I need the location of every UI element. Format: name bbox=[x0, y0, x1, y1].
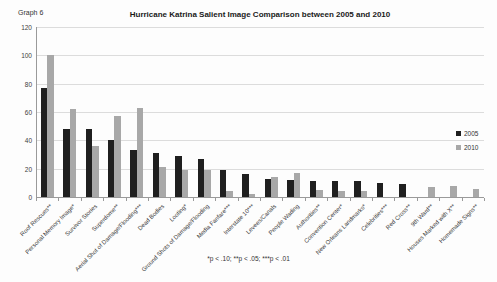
x-axis-tickmark bbox=[81, 198, 82, 201]
x-axis-tickmark bbox=[439, 198, 440, 201]
x-axis-tickmark bbox=[126, 198, 127, 201]
bar-2005-16 bbox=[399, 184, 406, 197]
x-axis-tickmark bbox=[394, 198, 395, 201]
bar-2010-5 bbox=[159, 167, 166, 197]
bar-2010-2 bbox=[92, 146, 99, 197]
x-axis-tickmark bbox=[36, 198, 37, 201]
y-axis-tick-20: 20 bbox=[8, 166, 32, 173]
legend-label-2005: 2005 bbox=[464, 130, 478, 137]
bar-2010-8 bbox=[226, 191, 233, 197]
bar-2010-19 bbox=[473, 189, 480, 198]
x-axis-tickmark bbox=[350, 198, 351, 201]
bar-2010-14 bbox=[361, 191, 368, 197]
legend-swatch-2010 bbox=[456, 145, 461, 150]
significance-footnote: *p < .10; **p < .05; ***p < .01 bbox=[0, 255, 497, 262]
bar-2010-11 bbox=[294, 173, 301, 197]
x-axis-tickmark bbox=[484, 198, 485, 201]
bar-2010-4 bbox=[137, 108, 144, 197]
bar-2010-3 bbox=[114, 116, 121, 197]
y-axis-tick-60: 60 bbox=[8, 109, 32, 116]
bar-2005-15 bbox=[377, 183, 384, 197]
x-axis-tickmark bbox=[462, 198, 463, 201]
bar-2010-7 bbox=[204, 170, 211, 197]
y-axis-tick-80: 80 bbox=[8, 81, 32, 88]
gridline-120 bbox=[36, 27, 484, 28]
x-axis-tickmark bbox=[215, 198, 216, 201]
bar-2010-6 bbox=[182, 170, 189, 197]
legend-label-2010: 2010 bbox=[464, 144, 478, 151]
bar-2010-13 bbox=[338, 191, 345, 197]
y-axis-tick-40: 40 bbox=[8, 137, 32, 144]
gridline-40 bbox=[36, 140, 484, 141]
y-axis-line bbox=[36, 27, 37, 197]
x-axis-tickmark bbox=[260, 198, 261, 201]
x-axis-tickmark bbox=[103, 198, 104, 201]
x-axis-tickmark bbox=[327, 198, 328, 201]
x-axis-tickmark bbox=[58, 198, 59, 201]
y-axis-tick-120: 120 bbox=[8, 24, 32, 31]
bar-2010-10 bbox=[271, 177, 278, 197]
y-axis-tick-0: 0 bbox=[8, 194, 32, 201]
x-axis-tickmark bbox=[417, 198, 418, 201]
gridline-20 bbox=[36, 169, 484, 170]
x-axis-tickmark bbox=[170, 198, 171, 201]
bar-2010-0 bbox=[47, 55, 54, 197]
bar-2010-12 bbox=[316, 190, 323, 197]
legend-item-2010: 2010 bbox=[456, 144, 478, 151]
bar-chart-plot-area: 020406080100120Roof Rescues**Personal Me… bbox=[0, 0, 497, 282]
bar-2010-18 bbox=[450, 186, 457, 197]
legend-item-2005: 2005 bbox=[456, 130, 478, 137]
bar-2010-1 bbox=[70, 109, 77, 197]
x-axis-tickmark bbox=[148, 198, 149, 201]
legend-swatch-2005 bbox=[456, 131, 461, 136]
gridline-80 bbox=[36, 84, 484, 85]
x-axis-tickmark bbox=[305, 198, 306, 201]
x-axis-tickmark bbox=[238, 198, 239, 201]
bar-2010-17 bbox=[428, 187, 435, 197]
x-axis-tickmark bbox=[282, 198, 283, 201]
x-axis-tickmark bbox=[193, 198, 194, 201]
chart-legend: 2005 2010 bbox=[456, 130, 478, 158]
gridline-60 bbox=[36, 112, 484, 113]
gridline-100 bbox=[36, 55, 484, 56]
y-axis-tick-100: 100 bbox=[8, 52, 32, 59]
bar-2010-9 bbox=[249, 194, 256, 197]
x-axis-tickmark bbox=[372, 198, 373, 201]
